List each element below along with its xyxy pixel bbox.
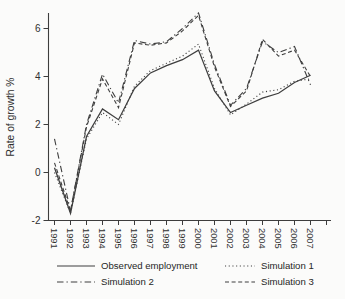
x-tick-label: 1999 — [177, 228, 187, 249]
y-tick-label: 6 — [35, 23, 41, 34]
x-tick-label: 2005 — [273, 228, 283, 249]
legend-line-sample-solid — [56, 261, 96, 271]
legend-label-observed-employment: Observed employment — [101, 260, 198, 271]
y-tick-label: 4 — [35, 71, 41, 82]
y-tick-label: 2 — [35, 119, 41, 130]
legend-label-simulation-2: Simulation 2 — [101, 276, 154, 287]
employment-growth-line-chart: -202461991199219931994199519961997199819… — [0, 0, 345, 258]
x-tick-label: 1992 — [65, 228, 75, 249]
x-tick-label: 1991 — [49, 228, 59, 249]
series-line-simulation-3 — [55, 15, 311, 211]
legend-item-simulation-1: Simulation 1 — [224, 258, 345, 273]
y-tick-label: 0 — [35, 167, 41, 178]
x-tick-label: 2000 — [193, 228, 203, 249]
x-tick-label: 2006 — [289, 228, 299, 249]
y-tick-label: -2 — [32, 215, 41, 226]
x-tick-label: 1995 — [113, 228, 123, 249]
legend-line-sample-dashed — [224, 277, 256, 287]
x-tick-label: 2002 — [225, 228, 235, 249]
x-tick-label: 1998 — [161, 228, 171, 249]
legend-label-simulation-1: Simulation 1 — [261, 260, 314, 271]
legend-item-simulation-2: Simulation 2 — [56, 274, 224, 289]
y-axis-title: Rate of growth % — [5, 78, 16, 157]
legend-item-observed-employment: Observed employment — [56, 258, 224, 273]
legend-label-simulation-3: Simulation 3 — [261, 276, 314, 287]
legend-line-sample-dotted — [224, 261, 256, 271]
series-line-observed-employment — [55, 50, 311, 213]
x-tick-label: 2007 — [305, 228, 315, 249]
x-tick-label: 2003 — [241, 228, 251, 249]
chart-legend: Observed employment Simulation 1 Simulat… — [0, 258, 345, 289]
x-tick-label: 2001 — [209, 228, 219, 249]
legend-line-sample-dashdot — [56, 277, 96, 287]
series-line-simulation-1 — [55, 44, 311, 213]
series-line-simulation-2 — [55, 13, 311, 211]
x-tick-label: 2004 — [257, 228, 267, 249]
x-tick-label: 1993 — [81, 228, 91, 249]
x-tick-label: 1994 — [97, 228, 107, 249]
chart-figure: -202461991199219931994199519961997199819… — [0, 0, 345, 299]
legend-item-simulation-3: Simulation 3 — [224, 274, 345, 289]
x-tick-label: 1996 — [129, 228, 139, 249]
x-tick-label: 1997 — [145, 228, 155, 249]
